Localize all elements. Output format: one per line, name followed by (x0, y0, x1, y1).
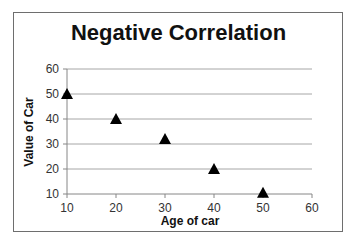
triangle-marker-icon (257, 187, 269, 198)
y-tick-label: 20 (46, 162, 60, 176)
x-tick-labels: 102030405060 (60, 201, 319, 215)
x-tick-label: 60 (305, 201, 319, 215)
triangle-marker-icon (159, 133, 171, 144)
chart-plot: 102030405060 102030405060 Value of Car A… (0, 0, 357, 250)
x-tick-label: 40 (207, 201, 221, 215)
x-tick-label: 20 (109, 201, 123, 215)
y-tick-label: 10 (46, 187, 60, 201)
axes (63, 69, 312, 198)
y-tick-label: 60 (46, 62, 60, 76)
y-tick-label: 50 (46, 87, 60, 101)
x-tick-label: 30 (158, 201, 172, 215)
y-tick-label: 40 (46, 112, 60, 126)
y-tick-labels: 102030405060 (46, 62, 60, 201)
y-tick-label: 30 (46, 137, 60, 151)
x-tick-label: 10 (60, 201, 74, 215)
gridlines (67, 69, 312, 169)
x-axis-label: Age of car (161, 214, 220, 228)
x-tick-label: 50 (256, 201, 270, 215)
y-axis-label: Value of Car (22, 97, 36, 167)
data-points (61, 88, 269, 198)
